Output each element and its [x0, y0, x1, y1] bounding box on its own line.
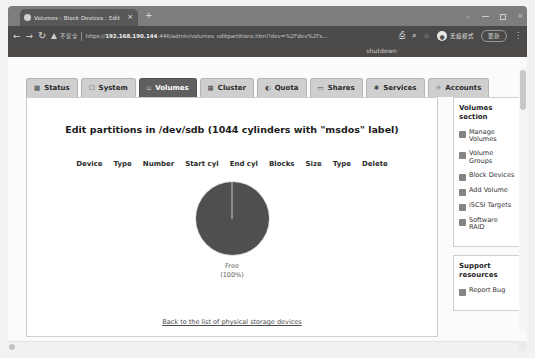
chart-icon: ▩: [34, 85, 40, 92]
tab-services[interactable]: ✱ Services: [366, 78, 425, 97]
sidebar-section-title: Volumes section: [459, 104, 515, 122]
page-viewport: shutdown ▩ Status ☐ System ▫ Volumes ▦: [8, 46, 527, 351]
page-content: ▩ Status ☐ System ▫ Volumes ▦ Cluster ◐: [8, 57, 527, 341]
zoom-icon[interactable]: ⌕: [412, 32, 416, 40]
minimize-icon[interactable]: [482, 16, 489, 17]
tab-status[interactable]: ▩ Status: [26, 78, 78, 97]
sidebar-section-title: Support resources: [459, 262, 515, 280]
col-type-2: Type: [333, 160, 351, 168]
tab-status-label: Status: [44, 84, 70, 92]
sidebar-item-report-bug[interactable]: Report Bug: [459, 287, 515, 296]
share-icon[interactable]: ⎙: [399, 32, 405, 40]
close-icon[interactable]: ×: [127, 14, 134, 21]
shutdown-link[interactable]: shutdown: [366, 47, 397, 54]
page-header-banner: shutdown: [8, 46, 527, 57]
main-panel: Edit partitions in /dev/sdb (1044 cylind…: [26, 97, 438, 337]
pie-slice-label: Free: [220, 262, 244, 271]
browser-tab[interactable]: Volumes : Block Devices : Edit ×: [20, 9, 138, 26]
col-delete: Delete: [362, 160, 388, 168]
address-bar[interactable]: 不安全 https://192.168.190.144:446/admin/vo…: [51, 30, 394, 43]
plus-icon: [459, 189, 466, 196]
new-tab-button[interactable]: +: [145, 11, 153, 20]
sidebar-item-label: Block Devices: [469, 172, 515, 180]
disk-icon: ▫: [147, 85, 151, 92]
gauge-icon: ◐: [265, 85, 271, 92]
sidebar-item-label: Software RAID: [469, 217, 515, 233]
sidebar-item-block-devices[interactable]: Block Devices: [459, 172, 515, 181]
vertical-scrollbar-thumb[interactable]: [520, 70, 526, 110]
tab-volumes[interactable]: ▫ Volumes: [139, 78, 197, 97]
cluster-icon: ▦: [208, 85, 214, 92]
col-end-cyl: End cyl: [230, 160, 258, 168]
volume-icon: [459, 131, 466, 138]
col-type: Type: [114, 160, 132, 168]
group-icon: [459, 152, 466, 159]
target-icon: [459, 204, 466, 211]
user-icon: ☼: [436, 85, 442, 92]
tab-volumes-label: Volumes: [155, 84, 188, 92]
box-icon: ☐: [89, 85, 95, 92]
sidebar-item-label: Manage Volumes: [469, 129, 515, 145]
url-host: 192.168.190.144: [105, 33, 157, 39]
tab-accounts-label: Accounts: [445, 84, 481, 92]
globe-icon: [24, 14, 31, 21]
tab-services-label: Services: [383, 84, 416, 92]
maximize-icon[interactable]: [500, 14, 506, 20]
tab-quota-label: Quota: [275, 84, 299, 92]
col-start-cyl: Start cyl: [185, 160, 218, 168]
browser-menu-icon[interactable]: ⋮: [514, 32, 522, 40]
sidebar-item-label: Volume Groups: [469, 150, 515, 166]
sidebar-item-label: Report Bug: [469, 287, 515, 295]
profile-label: 无痕模式: [450, 32, 474, 40]
pie-slice-percent: (100%): [220, 271, 244, 280]
vertical-scrollbar[interactable]: [519, 68, 527, 331]
disk-usage-chart: Free (100%): [27, 182, 437, 280]
pie-chart-legend: Free (100%): [220, 262, 244, 280]
sidebar-section-volumes: Volumes section Manage Volumes Volume Gr…: [453, 97, 521, 247]
page-title: Edit partitions in /dev/sdb (1044 cylind…: [27, 124, 437, 135]
tab-system[interactable]: ☐ System: [81, 78, 136, 97]
partitions-table-header: Device Type Number Start cyl End cyl Blo…: [27, 160, 437, 168]
browser-window: Volumes : Block Devices : Edit × + ⌄ × ←…: [0, 0, 535, 358]
col-number: Number: [143, 160, 174, 168]
tab-quota[interactable]: ◐ Quota: [257, 78, 307, 97]
sidebar-item-volume-groups[interactable]: Volume Groups: [459, 150, 515, 166]
col-blocks: Blocks: [269, 160, 295, 168]
window-controls: ⌄ ×: [465, 9, 523, 24]
url-scheme: https://: [85, 33, 105, 39]
browser-tabstrip: Volumes : Block Devices : Edit × + ⌄ ×: [8, 6, 527, 26]
sidebar-item-software-raid[interactable]: Software RAID: [459, 217, 515, 233]
tab-accounts[interactable]: ☼ Accounts: [428, 78, 490, 97]
tab-shares-label: Shares: [328, 84, 355, 92]
avatar: ●: [437, 31, 447, 41]
chevron-down-icon[interactable]: ⌄: [465, 13, 471, 20]
sidebar-item-label: iSCSI Targets: [469, 202, 515, 210]
sidebar-item-iscsi-targets[interactable]: iSCSI Targets: [459, 202, 515, 211]
divider: [81, 32, 82, 41]
tab-cluster[interactable]: ▦ Cluster: [200, 78, 254, 97]
gear-icon: ✱: [374, 85, 379, 92]
tab-shares[interactable]: ▭ Shares: [310, 78, 363, 97]
profile-button[interactable]: ● 无痕模式: [437, 31, 474, 41]
block-icon: [459, 174, 466, 181]
tab-cluster-label: Cluster: [218, 84, 246, 92]
browser-tab-title: Volumes : Block Devices : Edit: [34, 15, 124, 21]
folder-icon: ▭: [318, 85, 324, 92]
bookmark-star-icon[interactable]: ☆: [423, 32, 430, 40]
reload-icon[interactable]: ↻: [38, 31, 46, 41]
sidebar-item-manage-volumes[interactable]: Manage Volumes: [459, 129, 515, 145]
forward-icon[interactable]: →: [26, 32, 34, 41]
raid-icon: [459, 219, 466, 226]
url-path: :446/admin/volumes_editpartitions.html?d…: [157, 33, 327, 39]
col-size: Size: [306, 160, 322, 168]
horizontal-scrollbar[interactable]: [8, 341, 527, 351]
bug-icon: [459, 289, 466, 296]
sidebar-item-add-volume[interactable]: Add Volume: [459, 187, 515, 196]
window-close-icon[interactable]: ×: [517, 13, 523, 20]
update-button[interactable]: 更新: [481, 30, 507, 42]
horizontal-scrollbar-thumb[interactable]: [9, 344, 15, 350]
back-icon[interactable]: ←: [13, 32, 21, 41]
back-to-storage-devices-link[interactable]: Back to the list of physical storage dev…: [27, 318, 437, 326]
pie-chart: [196, 182, 269, 255]
url-text: https://192.168.190.144:446/admin/volume…: [85, 33, 394, 39]
